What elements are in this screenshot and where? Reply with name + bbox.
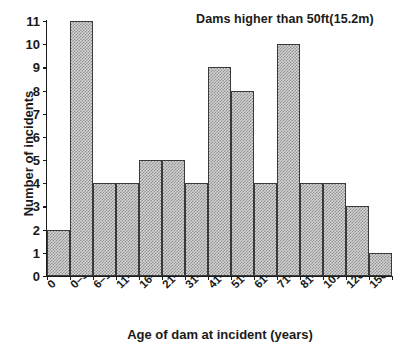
histogram-bar — [300, 183, 323, 276]
y-tick-label: 1 — [33, 246, 40, 259]
y-tick-mark — [43, 183, 47, 184]
y-tick-mark — [43, 206, 47, 207]
histogram-bar — [254, 183, 277, 276]
y-tick-label: 10 — [26, 38, 40, 51]
y-tick-label: 5 — [33, 154, 40, 167]
histogram-bar — [323, 183, 346, 276]
y-tick-mark — [43, 114, 47, 115]
y-tick-mark — [43, 67, 47, 68]
x-tick-mark — [392, 276, 393, 280]
y-tick-label: 11 — [26, 15, 40, 28]
y-tick-label: 0 — [33, 270, 40, 283]
y-tick-label: 6 — [33, 130, 40, 143]
histogram-bar — [231, 91, 254, 276]
y-tick-mark — [43, 160, 47, 161]
y-tick-label: 9 — [33, 61, 40, 74]
histogram-bar — [185, 183, 208, 276]
y-tick-mark — [43, 21, 47, 22]
histogram-figure: Dams higher than 50ft(15.2m) Number of i… — [0, 0, 418, 351]
plot-area: 01234567891011 00–56–1011–1516–2021–3031… — [47, 21, 392, 276]
histogram-bar — [346, 206, 369, 276]
y-tick-label: 7 — [33, 107, 40, 120]
x-axis-title: Age of dam at incident (years) — [47, 327, 393, 342]
histogram-bar — [162, 160, 185, 276]
y-tick-mark — [43, 44, 47, 45]
y-tick-label: 8 — [33, 84, 40, 97]
y-tick-mark — [43, 137, 47, 138]
histogram-bar — [208, 67, 231, 276]
y-tick-label: 2 — [33, 223, 40, 236]
y-tick-mark — [43, 91, 47, 92]
histogram-bar — [116, 183, 139, 276]
histogram-bar — [93, 183, 116, 276]
y-tick-label: 4 — [33, 177, 40, 190]
histogram-bar — [277, 44, 300, 276]
x-tick-label: 0 — [45, 277, 58, 290]
y-tick-label: 3 — [33, 200, 40, 213]
histogram-bar — [139, 160, 162, 276]
histogram-bar — [70, 21, 93, 276]
histogram-bar — [369, 253, 392, 276]
histogram-bar — [47, 230, 70, 276]
